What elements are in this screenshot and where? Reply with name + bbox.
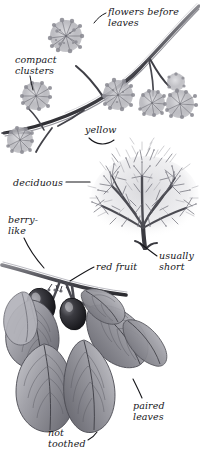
- leader-berry-like: [24, 238, 44, 268]
- label-red-fruit: red fruit: [96, 262, 137, 273]
- flower-cluster-upper-left: [48, 18, 84, 54]
- leader-red-fruit: [70, 267, 94, 281]
- flower-cluster-top-right: [167, 72, 186, 91]
- leaf-behind-berry: [4, 292, 38, 345]
- label-deciduous: deciduous: [13, 178, 63, 189]
- leader-usually-short: [140, 243, 157, 256]
- flower-cluster-right-a: [138, 89, 167, 117]
- flower-cluster-center: [102, 78, 135, 111]
- label-flowers-before-leaves: flowers before leaves: [108, 7, 179, 28]
- label-berry-like: berry- like: [8, 215, 38, 236]
- shrub-root-b: [146, 243, 157, 249]
- leader-paired-leaves: [133, 379, 142, 398]
- label-not-toothed: not toothed: [48, 428, 86, 449]
- flower-cluster-lower-left: [6, 126, 34, 154]
- leader-flowers-before-leaves: [94, 13, 106, 23]
- label-compact-clusters: compact clusters: [15, 55, 57, 76]
- leader-yellow: [89, 138, 114, 144]
- flower-cluster-left: [20, 81, 52, 111]
- leader-not-toothed: [88, 432, 97, 440]
- label-usually-short: usually short: [159, 251, 194, 272]
- label-yellow: yellow: [85, 125, 117, 136]
- twig-f: [36, 128, 52, 152]
- twig-d: [76, 66, 104, 98]
- label-paired-leaves: paired leaves: [133, 401, 165, 422]
- shrub-habit-group: [88, 138, 199, 249]
- flower-cluster-right-b: [165, 89, 198, 119]
- illustration-plate: flowers before leaves compact clusters y…: [0, 0, 200, 459]
